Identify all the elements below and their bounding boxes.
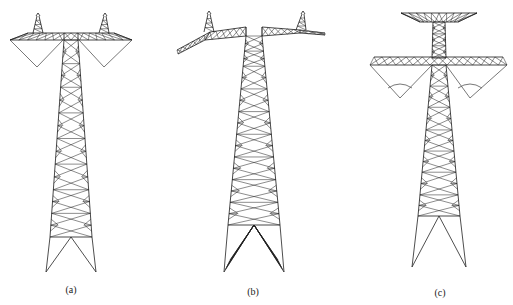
top-crossarm-diagonal	[439, 13, 447, 22]
mast-secondary	[80, 145, 85, 151]
lower-crossarm-diagonal	[404, 57, 414, 65]
crossarm-right-inner-bottom-chord	[262, 36, 268, 37]
earth-wire-peak-left-brace	[205, 28, 214, 33]
mast-secondary	[79, 119, 84, 125]
lower-crossarm-diagonal	[456, 57, 463, 65]
crossarm-right-inner-bottom-chord	[281, 34, 287, 35]
lower-crossarm-diagonal	[498, 57, 503, 65]
crossarm-diagonal	[114, 33, 123, 40]
mast-secondary	[238, 117, 244, 123]
insulator-v-string-right	[446, 65, 507, 98]
mast-brace	[233, 168, 275, 179]
mast-secondary	[81, 171, 87, 177]
insulator-v-string-left	[370, 65, 432, 98]
leg-left-outer	[412, 216, 418, 267]
mast-brace	[233, 157, 273, 168]
mast-secondary	[422, 178, 428, 184]
mast-brace	[419, 195, 458, 206]
mast-brace	[58, 126, 85, 139]
earth-wire-clamp-icon	[36, 13, 40, 16]
crossarm-left-outer-vertical	[177, 50, 178, 54]
top-crossarm-diagonal	[439, 13, 443, 22]
crossarm-right-inner-top-chord	[262, 27, 268, 28]
earth-wire-peak-left-brace	[34, 29, 43, 33]
crossarm-left-inner-top-chord	[240, 27, 246, 28]
lower-crossarm-diagonal	[464, 57, 471, 65]
mast-secondary	[450, 178, 456, 184]
mast-secondary	[84, 219, 91, 225]
mast-brace	[237, 123, 271, 134]
insulator-v-string-left	[10, 40, 63, 67]
arcing-horn-left	[388, 84, 412, 88]
mast-brace	[232, 168, 274, 179]
lower-crossarm-diagonal	[396, 57, 407, 65]
crossarm-diagonal	[88, 33, 89, 40]
mast-secondary	[236, 140, 242, 146]
crossarm-left-end	[10, 33, 28, 40]
earth-wire-clamp-icon	[207, 11, 211, 14]
mast-brace	[420, 195, 459, 206]
mast-secondary	[230, 208, 239, 214]
mast-secondary	[55, 171, 61, 177]
mast-brace	[53, 177, 87, 190]
crossarm-left-inner-bottom-chord	[219, 38, 226, 39]
crossarm-diagonal	[83, 33, 97, 40]
mast-secondary	[449, 156, 455, 161]
mast-secondary	[265, 140, 271, 146]
crossarm-left-outer-bottom-chord	[196, 42, 201, 44]
crossarm-right-inner-diagonal	[262, 28, 268, 37]
crossarm-left-inner-diagonal	[222, 30, 226, 38]
crossarm-diagonal	[45, 33, 47, 40]
mast-brace	[52, 202, 90, 214]
crossarm-diagonal	[45, 33, 59, 40]
crossarm-right-inner-top-chord	[268, 28, 274, 29]
earth-wire-clamp-icon	[301, 11, 305, 14]
mast-brace	[425, 141, 454, 152]
mast-secondary	[240, 95, 245, 101]
mast-brace	[53, 190, 89, 202]
crossarm-right-outer-diagonal	[317, 33, 325, 34]
crossarm-right-inner-diagonal	[275, 29, 281, 36]
mast-brace	[54, 177, 88, 190]
mast-secondary	[78, 94, 82, 100]
mast-secondary	[452, 200, 459, 205]
crossarm-right-inner-top-chord	[281, 29, 287, 30]
lower-crossarm-diagonal	[490, 57, 495, 65]
crossarm-left-inner-diagonal	[228, 30, 232, 38]
crossarm-diagonal	[36, 33, 52, 40]
crossarm-right-inner-diagonal	[262, 27, 268, 36]
crossarm-left-inner-diagonal	[240, 28, 246, 36]
mast-secondary	[419, 200, 426, 205]
crossarm-right-inner-diagonal	[268, 28, 274, 36]
mast-brace	[231, 180, 275, 191]
crossarm-left-inner-bottom-chord	[239, 36, 246, 37]
mast-brace	[60, 100, 83, 113]
mast-secondary	[83, 196, 89, 202]
crossarm-right-inner-diagonal	[275, 28, 281, 35]
mast-brace	[423, 162, 456, 173]
mast-secondary	[58, 119, 63, 125]
lower-crossarm-diagonal	[413, 57, 423, 65]
top-crossarm-diagonal	[431, 13, 439, 22]
crossarm-left-outer-bottom-chord	[201, 40, 206, 42]
mast-brace	[424, 141, 453, 152]
mast-brace	[421, 184, 458, 195]
mast-brace	[240, 100, 269, 111]
crossarm-left-inner-bottom-chord	[232, 37, 239, 38]
crossarm-left-outer-top-chord	[188, 41, 194, 44]
leg-left-inner	[412, 216, 439, 267]
mast-secondary	[263, 95, 268, 101]
tower-a	[10, 13, 132, 272]
mast-secondary	[267, 163, 274, 169]
crossarm-right-end	[114, 33, 132, 40]
panel-label-a: (a)	[65, 284, 76, 296]
mast-secondary	[53, 196, 59, 202]
earth-wire-peak-right-brace	[299, 22, 306, 26]
crossarm-right-inner-bottom-chord	[268, 35, 274, 36]
top-crossarm-diagonal	[435, 13, 439, 22]
mast-brace	[53, 202, 91, 214]
mast-brace	[236, 146, 274, 157]
insulator-v-string-right	[79, 40, 132, 67]
crossarm-left-outer-top-chord	[199, 35, 205, 38]
panel-label-b: (b)	[247, 286, 259, 298]
